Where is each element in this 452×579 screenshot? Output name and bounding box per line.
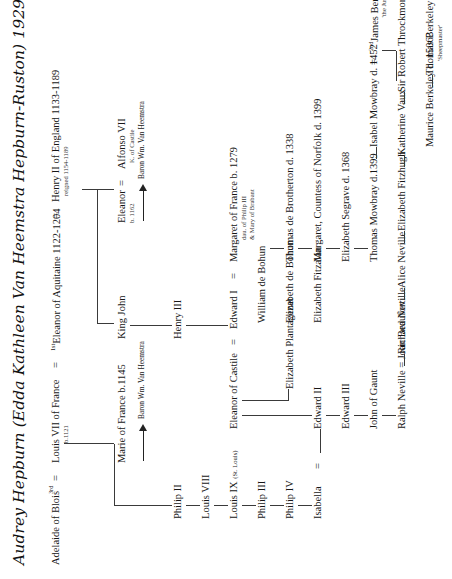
node-philip-ii: Philip II <box>172 484 184 519</box>
connector-philip3-philip4 <box>270 505 284 506</box>
marriage-sign-isabella-edward2: = <box>312 463 323 469</box>
marriage-sign-isabel-james: = <box>368 59 379 65</box>
node-label: Edward III <box>340 383 352 429</box>
node-sub: 'Sheepmaster' <box>436 0 444 61</box>
connector-eleanor-children <box>97 190 98 324</box>
node-label: Baron Wm. Van Heemstra <box>138 341 146 419</box>
connector-henry3-edward1 <box>186 325 228 326</box>
node-label: Isabella <box>312 486 324 519</box>
node-william-de-bohun: William de Bohun <box>256 246 268 323</box>
node-label: Eleanor of Aquitaine 1122-1204 <box>51 209 62 344</box>
node-john-of-gaunt: John of Gaunt <box>368 370 380 430</box>
node-katherine-vaux: Katherine Vaux <box>396 90 408 155</box>
connector-james-maurice-stem <box>382 50 396 51</box>
node-sub: b. 1162 <box>128 190 136 223</box>
node-philip-iii: Philip III <box>256 481 268 519</box>
connector-vaux-throckmorton <box>404 92 405 104</box>
node-louis-viii: Louis VIII <box>200 475 212 519</box>
marriage-sign-adelaide-louis: = <box>50 475 61 481</box>
genealogy-chart-page: Audrey Hepburn (Edda Kathleen Van Heemst… <box>0 0 452 579</box>
page-title: Audrey Hepburn (Edda Kathleen Van Heemst… <box>10 0 28 565</box>
node-richard-neville: Richard Neville <box>396 287 408 354</box>
node-label: Edward II <box>312 387 324 429</box>
connector-maurice-thomas <box>432 75 433 87</box>
node-ordinal: 1st <box>49 344 56 351</box>
node-label: Richard Neville <box>396 287 408 354</box>
node-thomas-berkeley: Thomas Berkeley d. 1533 'Sheepmaster' <box>424 0 444 75</box>
node-louis-vii: Louis VII of France b.1121 <box>50 380 70 464</box>
node-label: Sir Robert Throckmorton d.1581 <box>396 0 408 92</box>
connector-fitzhugh-vaux <box>404 155 405 167</box>
node-marie-of-france: Marie of France b.1145 <box>116 364 128 463</box>
node-label: Philip IV <box>284 480 296 519</box>
connector-to-king-john <box>97 323 114 324</box>
node-label: Edward I <box>228 290 240 329</box>
node-thomas-mowbray: Thomas Mowbray d.1399 <box>368 153 380 262</box>
node-adelaide-ordinal: 3rd <box>48 486 55 494</box>
node-label: John of Gaunt <box>368 370 380 430</box>
connector-neville-richard <box>404 354 405 366</box>
connector-edward3-johnofgaunt <box>354 415 368 416</box>
node-label: Philip II <box>172 484 184 519</box>
connector-philip2-stem <box>114 505 172 506</box>
node-eleanor-of-castile: Eleanor of Castile <box>228 353 240 429</box>
node-label: Alfonso VII <box>116 118 128 169</box>
connector-margaret-brotherton <box>270 248 284 249</box>
node-henry-ii: Henry II of England 1133-1189 reigned 11… <box>50 70 70 202</box>
node-eleanor-of-aquitaine: 1stEleanor of Aquitaine 1122-1204 <box>50 209 62 351</box>
node-edward-i: Edward I <box>228 290 240 329</box>
connector-edward1-edward2 <box>242 415 312 416</box>
marriage-sign-louis-eleanor: = <box>50 362 61 368</box>
node-label: Baron Wm. Van Heemstra <box>138 101 146 179</box>
connector-philip4-isabella <box>298 505 312 506</box>
node-label: Thomas Berkeley d. 1533 <box>424 0 436 75</box>
node-james-berkeley: 2ndJames Berkeley 'the Just' <box>368 0 388 51</box>
node-baron-heemstra-right: Baron Wm. Van Heemstra <box>138 101 146 179</box>
connector-norfolk-segrave <box>326 248 340 249</box>
node-sub: K. of Castile <box>128 118 136 163</box>
marriage-sign-eleanor-henry: = <box>50 213 61 219</box>
connector-from-henry <box>82 189 97 190</box>
connector-james-to-maurice <box>396 51 397 81</box>
node-label: Marie of France b.1145 <box>116 364 128 463</box>
node-alfonso-vii: Alfonso VII K. of Castile <box>116 118 136 169</box>
connector-plantagenet-stub <box>288 389 289 401</box>
connector-to-eleanor <box>97 189 114 190</box>
node-label: William de Bohun <box>256 246 268 323</box>
connector-louis8-louis9 <box>214 505 228 506</box>
node-label: Henry III <box>172 300 184 339</box>
node-henry-iii: Henry III <box>172 300 184 339</box>
connector-philip2-louis8 <box>186 505 200 506</box>
node-label: Katherine Vaux <box>396 90 408 155</box>
node-label: Eleanor of Castile <box>228 353 240 429</box>
marriage-sign-eleanor-alfonso: = <box>116 180 127 186</box>
marriage-sign-edward1-margaret: = <box>228 273 239 279</box>
node-ordinal: 2nd <box>367 42 374 51</box>
connector-louis-down <box>64 443 114 444</box>
connector-isabella-edward2 <box>320 429 321 453</box>
connector-louis-to-philip2 <box>114 444 115 506</box>
node-label: Thomas de Brotherton d. 1338 <box>284 133 296 262</box>
node-edward-ii: Edward II <box>312 387 324 429</box>
node-label: Philip III <box>256 481 268 519</box>
node-label: Margaret, Countess of Norfolk d. 1399 <box>312 99 324 262</box>
chart-stage: Audrey Hepburn (Edda Kathleen Van Heemst… <box>0 0 452 579</box>
node-label: Henry II of England 1133-1189 <box>50 70 62 202</box>
node-sub-2: & Mary of Brabant <box>248 147 256 240</box>
node-label: Margaret of France b. 1279 <box>228 147 240 262</box>
connector-richard-alice <box>404 288 405 300</box>
connector-edward1-plantagenet <box>242 400 288 401</box>
node-label: Alice Neville <box>396 232 408 288</box>
node-label: Eleanor <box>116 190 128 223</box>
connector-alice-fitzhugh <box>404 231 405 243</box>
connector-louis9-philip3 <box>242 505 256 506</box>
node-alice-neville: Alice Neville <box>396 232 408 288</box>
node-sir-robert-throckmorton: Sir Robert Throckmorton d.1581 <box>396 0 408 92</box>
node-sub-1: dau. of Philip III <box>240 147 248 240</box>
node-margaret-countess-of-norfolk: Margaret, Countess of Norfolk d. 1399 <box>312 99 324 262</box>
connector-edward2-edward3 <box>326 415 340 416</box>
node-sub: b.1121 <box>62 380 70 444</box>
node-suffix: (St. Louis) <box>231 451 238 479</box>
connector-gaunt-joanbeaufort <box>382 415 396 416</box>
node-margaret-of-france: Margaret of France b. 1279 dau. of Phili… <box>228 147 255 262</box>
